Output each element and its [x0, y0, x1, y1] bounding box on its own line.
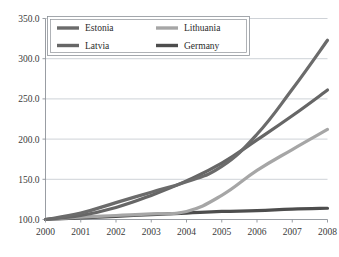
- x-axis-labels-group: 200020012002200320042005200620072008: [36, 227, 337, 237]
- x-axis-tick-label: 2006: [248, 227, 267, 237]
- legend-label-germany: Germany: [184, 41, 220, 51]
- x-axis-tick-label: 2007: [283, 227, 302, 237]
- x-axis-tick-label: 2003: [142, 227, 161, 237]
- legend-label-lithuania: Lithuania: [184, 23, 221, 33]
- legend-label-estonia: Estonia: [85, 23, 114, 33]
- y-axis-tick-label: 250.0: [18, 94, 40, 104]
- x-axis-tick-label: 2008: [318, 227, 337, 237]
- y-axis-tick-label: 300.0: [18, 54, 40, 64]
- x-axis-tick-label: 2001: [71, 227, 90, 237]
- x-axis-tick-label: 2000: [36, 227, 55, 237]
- line-chart: 100.0150.0200.0250.0300.0350.0 200020012…: [0, 0, 339, 257]
- y-axis-tick-label: 350.0: [18, 14, 40, 24]
- x-axis-tick-label: 2005: [212, 227, 231, 237]
- chart-legend: EstoniaLithuaniaLatviaGermany: [48, 17, 250, 56]
- y-axis-tick-label: 150.0: [18, 175, 40, 185]
- x-axis-tick-label: 2004: [177, 227, 196, 237]
- y-axis-tick-label: 200.0: [18, 135, 40, 145]
- chart-canvas: 100.0150.0200.0250.0300.0350.0 200020012…: [0, 0, 339, 257]
- x-axis-tick-label: 2002: [107, 227, 126, 237]
- y-axis-tick-label: 100.0: [18, 215, 40, 225]
- legend-label-latvia: Latvia: [85, 41, 110, 51]
